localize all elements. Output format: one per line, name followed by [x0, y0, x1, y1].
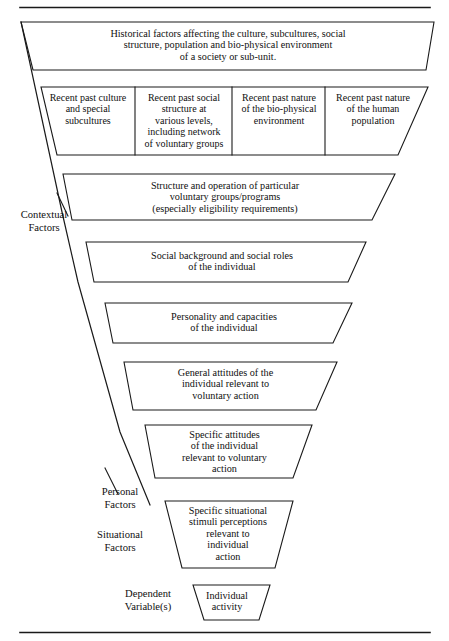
structure-and-operation-label: Structure and operation of particular vo…: [75, 180, 375, 214]
specific-attitudes-label: Specific attitudes of the individual rel…: [155, 429, 294, 475]
general-attitudes-label: General attitudes of the individual rele…: [134, 367, 317, 401]
specific-situational-stimuli-label: Specific situational stimuli perceptions…: [175, 505, 281, 562]
personality-and-capacities-label: Personality and capacities of the indivi…: [114, 311, 334, 334]
figure-canvas: Historical factors affecting the culture…: [0, 0, 449, 641]
recent-past-culture-label: Recent past culture and special subcultu…: [42, 92, 134, 126]
recent-past-human-population-label: Recent past nature of the human populati…: [327, 92, 419, 126]
situational-factors-label: Situational Factors: [80, 529, 160, 554]
contextual-factors-label: Contextual Factors: [7, 209, 81, 234]
individual-activity-label: Individual activity: [196, 590, 258, 613]
social-background-label: Social background and social roles of th…: [96, 250, 348, 273]
personal-factors-label: Personal Factors: [86, 486, 154, 511]
recent-past-bio-physical-label: Recent past nature of the bio-physical e…: [234, 92, 324, 126]
historical-factors-label: Historical factors affecting the culture…: [40, 28, 416, 62]
recent-past-social-structure-label: Recent past social structure at various …: [137, 92, 231, 149]
dependent-variables-label: Dependent Variable(s): [108, 588, 188, 613]
